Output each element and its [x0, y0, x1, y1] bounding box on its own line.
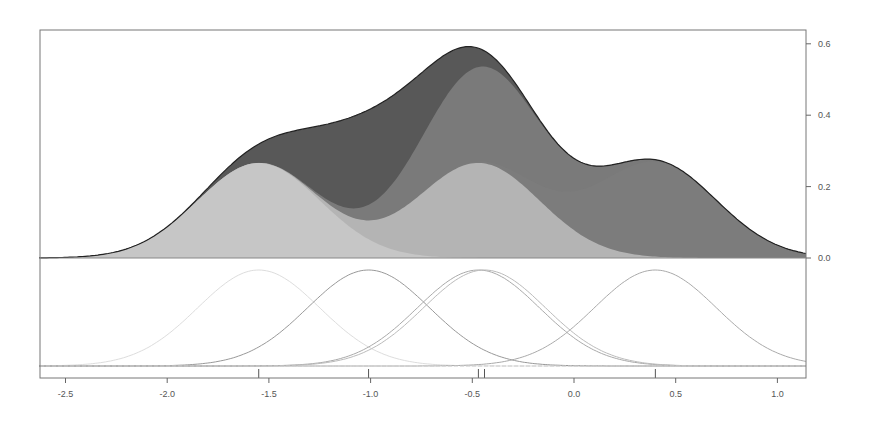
- kernel-curve: [39, 270, 806, 366]
- x-tick-label: -2.0: [159, 389, 175, 399]
- stacked-density-layers: [39, 47, 806, 258]
- rug-ticks: [259, 369, 656, 378]
- x-tick-label: -1.5: [261, 389, 277, 399]
- y-tick-label: 0.0: [818, 253, 831, 263]
- x-tick-label: 0.5: [669, 389, 682, 399]
- y-tick-label: 0.2: [818, 182, 831, 192]
- y-tick-label: 0.4: [818, 110, 831, 120]
- y-axis: 0.00.20.40.6: [806, 39, 831, 263]
- individual-kernels: [39, 270, 806, 366]
- density-chart: -2.5-2.0-1.5-1.0-0.50.00.51.0 0.00.20.40…: [0, 0, 870, 431]
- x-tick-label: 1.0: [771, 389, 784, 399]
- x-tick-label: -1.0: [363, 389, 379, 399]
- x-axis: -2.5-2.0-1.5-1.0-0.50.00.51.0: [58, 378, 784, 399]
- x-tick-label: 0.0: [568, 389, 581, 399]
- y-tick-label: 0.6: [818, 39, 831, 49]
- x-tick-label: -2.5: [58, 389, 74, 399]
- x-tick-label: -0.5: [465, 389, 481, 399]
